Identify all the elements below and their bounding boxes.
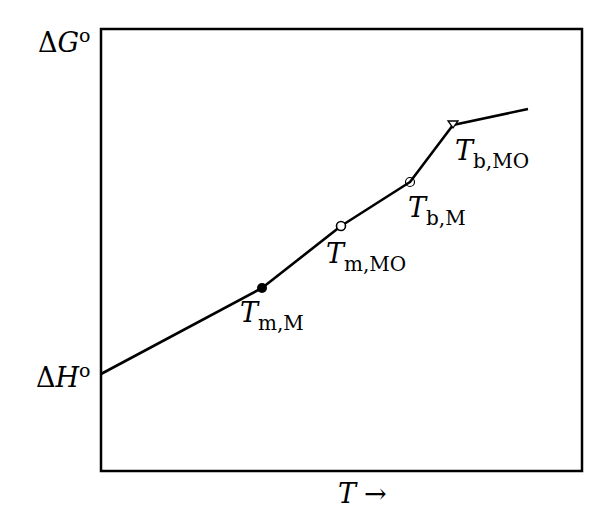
label-tb-mo: Tb,MO bbox=[455, 135, 529, 173]
marker-filled-circle-icon bbox=[257, 283, 267, 293]
label-tm-m: Tm,M bbox=[240, 297, 304, 335]
y-intercept-label: ΔHo bbox=[36, 359, 91, 393]
label-tb-m: Tb,M bbox=[408, 192, 466, 230]
marker-open-circle-icon bbox=[337, 222, 346, 231]
x-axis-label: T→ bbox=[338, 478, 387, 509]
y-axis-label: ΔGo bbox=[38, 24, 91, 58]
label-tm-mo: Tm,MO bbox=[326, 238, 406, 276]
ellingham-diagram: ΔGo ΔHo T→ Tm,M Tm,MO Tb,M Tb,MO bbox=[0, 0, 610, 530]
